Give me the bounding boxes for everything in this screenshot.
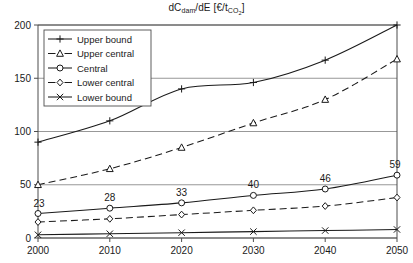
- marker-central-2030: [250, 192, 256, 198]
- marker-lower-central-2020: [179, 211, 185, 218]
- series-line-central: [38, 175, 397, 213]
- marker-upper-bound-2050: [393, 21, 400, 28]
- series-central: [35, 172, 400, 216]
- legend-label-central: Central: [77, 63, 108, 74]
- series-line-lower-bound: [38, 229, 397, 234]
- y-tick-label-150: 150: [14, 73, 31, 84]
- marker-central-2020: [179, 200, 185, 206]
- x-axis-ticks: 200020102020203020402050: [27, 238, 409, 256]
- x-tick-label-2010: 2010: [99, 245, 122, 256]
- legend-label-upper-bound: Upper bound: [77, 34, 132, 45]
- legend-label-upper-central: Upper central: [77, 48, 134, 59]
- x-tick-label-2000: 2000: [27, 245, 50, 256]
- marker-upper-central-2040: [322, 96, 329, 102]
- legend-label-lower-bound: Lower bound: [77, 92, 132, 103]
- y-tick-label-50: 50: [20, 179, 32, 190]
- data-point-labels: 232833404659: [33, 159, 401, 208]
- marker-central-2050: [394, 172, 400, 178]
- marker-lower-central-2040: [322, 203, 328, 210]
- data-label-central-2030: 40: [248, 179, 260, 190]
- marker-lower-central-2030: [250, 207, 256, 214]
- legend-marker-central: [57, 65, 63, 71]
- data-label-central-2040: 46: [320, 173, 332, 184]
- chart-legend: Upper boundUpper centralCentralLower cen…: [44, 30, 151, 106]
- marker-central-2040: [322, 186, 328, 192]
- marker-upper-bound-2040: [322, 57, 329, 64]
- legend-label-lower-central: Lower central: [77, 77, 134, 88]
- y-tick-label-200: 200: [14, 20, 31, 31]
- chart-plot-area: 050100150200 200020102020203020402050 23…: [0, 0, 413, 263]
- marker-upper-bound-2030: [250, 79, 257, 86]
- x-tick-label-2050: 2050: [386, 245, 409, 256]
- chart-figure: dCdam/dE [€/tCO2] 050100150200 200020102…: [0, 0, 413, 263]
- data-label-central-2000: 23: [33, 198, 45, 209]
- y-tick-label-100: 100: [14, 126, 31, 137]
- marker-upper-bound-2020: [178, 85, 185, 92]
- marker-central-2010: [107, 205, 113, 211]
- x-tick-label-2040: 2040: [314, 245, 337, 256]
- marker-upper-bound-2000: [34, 139, 41, 146]
- marker-lower-central-2050: [394, 194, 400, 201]
- marker-lower-central-2000: [35, 219, 41, 226]
- y-tick-label-0: 0: [25, 233, 31, 244]
- data-label-central-2020: 33: [176, 187, 188, 198]
- marker-upper-central-2010: [106, 165, 113, 171]
- data-label-central-2050: 59: [389, 159, 401, 170]
- marker-lower-central-2010: [107, 215, 113, 222]
- marker-upper-central-2050: [394, 55, 401, 61]
- marker-upper-bound-2010: [106, 117, 113, 124]
- x-tick-label-2030: 2030: [242, 245, 265, 256]
- marker-central-2000: [35, 211, 41, 217]
- data-label-central-2010: 28: [104, 192, 116, 203]
- y-axis-ticks: 050100150200: [14, 20, 38, 244]
- x-tick-label-2020: 2020: [170, 245, 193, 256]
- marker-upper-central-2020: [178, 144, 185, 150]
- series-lower-bound: [35, 226, 400, 238]
